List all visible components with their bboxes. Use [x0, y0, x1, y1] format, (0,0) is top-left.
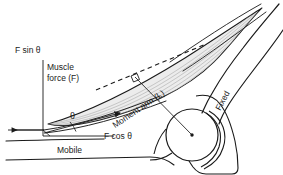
- label-f-cos-theta: F cos θ: [104, 131, 132, 141]
- mobile-bone-shaft: [6, 139, 174, 165]
- biomechanics-diagram: F sin θ Muscle force (F) θ F cos θ Mobil…: [0, 0, 283, 175]
- joint-bone-group: [150, 95, 238, 174]
- label-theta: θ: [70, 111, 75, 121]
- label-f-sin-theta: F sin θ: [15, 45, 41, 55]
- diagram-canvas: [0, 0, 283, 175]
- label-muscle-force: Muscle force (F): [47, 62, 79, 84]
- label-mobile: Mobile: [57, 145, 82, 155]
